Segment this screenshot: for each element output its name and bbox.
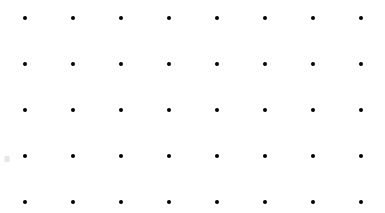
grid-dot xyxy=(263,108,267,112)
grid-dot xyxy=(359,200,363,204)
grid-dot xyxy=(119,200,123,204)
grid-dot xyxy=(119,154,123,158)
grid-dot xyxy=(215,16,219,20)
grid-dot xyxy=(311,62,315,66)
grid-dot xyxy=(167,108,171,112)
grid-dot xyxy=(23,108,27,112)
grid-dot xyxy=(71,62,75,66)
grid-dot xyxy=(215,154,219,158)
grid-dot xyxy=(359,108,363,112)
grid-dot xyxy=(311,108,315,112)
grid-dot xyxy=(167,200,171,204)
grid-dot xyxy=(263,200,267,204)
grid-dot xyxy=(119,62,123,66)
grid-dot xyxy=(71,154,75,158)
grid-dot xyxy=(359,154,363,158)
grid-dot xyxy=(263,154,267,158)
grid-dot xyxy=(359,62,363,66)
grid-dot xyxy=(263,16,267,20)
grid-dot xyxy=(119,16,123,20)
grid-dot xyxy=(215,108,219,112)
grid-dot xyxy=(167,154,171,158)
grid-dot xyxy=(311,154,315,158)
grid-dot xyxy=(311,200,315,204)
grid-dot xyxy=(71,200,75,204)
grid-dot xyxy=(167,16,171,20)
grid-dot xyxy=(119,108,123,112)
grid-dot xyxy=(23,154,27,158)
dot-grid-canvas xyxy=(0,0,385,213)
grid-dot xyxy=(263,62,267,66)
grid-dot xyxy=(167,62,171,66)
grid-dot xyxy=(71,108,75,112)
grid-dot xyxy=(71,16,75,20)
grid-dot xyxy=(359,16,363,20)
grid-dot xyxy=(215,62,219,66)
grid-dot xyxy=(23,62,27,66)
left-edge-smudge xyxy=(5,156,10,162)
grid-dot xyxy=(215,200,219,204)
grid-dot xyxy=(23,200,27,204)
grid-dot xyxy=(311,16,315,20)
grid-dot xyxy=(23,16,27,20)
